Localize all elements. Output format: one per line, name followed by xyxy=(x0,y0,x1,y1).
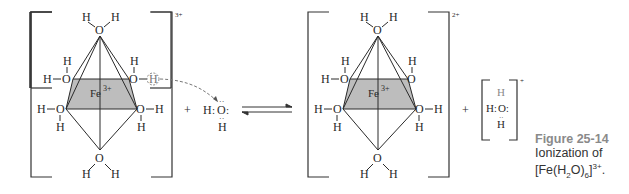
svg-text:H: H xyxy=(155,102,164,116)
fe-hydrolysis-diagram: H H O H H O H O H H O H O H H O H H xyxy=(0,0,629,194)
svg-text:H: H xyxy=(111,167,120,181)
svg-text:O: O xyxy=(62,72,71,86)
svg-text:O: O xyxy=(373,151,382,165)
svg-text:H: H xyxy=(43,72,52,86)
caption-line1: Ionization of xyxy=(535,146,602,160)
svg-text:H: H xyxy=(82,10,91,24)
svg-text:H: H xyxy=(111,10,120,24)
svg-text:H: H xyxy=(137,120,146,134)
svg-text:H: H xyxy=(63,54,72,68)
svg-text:H: H xyxy=(82,167,91,181)
figure-number: Figure 25-14 xyxy=(535,132,629,146)
svg-text:··: ·· xyxy=(219,97,224,106)
svg-text:O: O xyxy=(415,102,424,116)
svg-text:H: H xyxy=(486,102,494,114)
metal-ion-label: Fe xyxy=(90,87,101,99)
svg-text:H: H xyxy=(56,120,65,134)
svg-text:H: H xyxy=(415,120,424,134)
svg-text:H: H xyxy=(389,10,398,24)
svg-text:H: H xyxy=(341,54,350,68)
svg-text:H: H xyxy=(333,120,342,134)
svg-text:O: O xyxy=(136,102,145,116)
svg-text:O: O xyxy=(340,72,349,86)
plus-sign: + xyxy=(184,103,191,117)
svg-text:O: O xyxy=(95,23,104,37)
svg-text:3+: 3+ xyxy=(381,84,390,93)
complex-charge: 3+ xyxy=(175,11,183,19)
svg-text:H: H xyxy=(497,86,505,98)
figure-caption: Figure 25-14 Ionization of [Fe(H2O)6]3+. xyxy=(535,132,629,183)
svg-text:H: H xyxy=(321,72,330,86)
svg-text:O: O xyxy=(129,72,138,86)
svg-text:O: O xyxy=(373,23,382,37)
svg-text:H: H xyxy=(360,167,369,181)
svg-text:3+: 3+ xyxy=(103,84,112,93)
svg-text:H: H xyxy=(314,102,323,116)
svg-text:H: H xyxy=(218,120,227,134)
hydronium-charge: + xyxy=(520,77,524,85)
caption-formula: [Fe(H2O)6]3+. xyxy=(535,163,605,177)
svg-text:H: H xyxy=(408,54,417,68)
product-metal-ion-label: Fe xyxy=(368,87,379,99)
svg-text:H: H xyxy=(203,103,212,117)
svg-text:H: H xyxy=(37,102,46,116)
svg-text::: : xyxy=(506,103,509,114)
product-equatorial-plane xyxy=(343,79,416,109)
svg-text::: : xyxy=(226,104,229,116)
svg-text:O: O xyxy=(407,72,416,86)
equilibrium-arrows xyxy=(242,104,292,115)
svg-text::: : xyxy=(494,103,497,114)
product-complex-charge: 2+ xyxy=(452,11,460,19)
svg-text:O: O xyxy=(95,151,104,165)
svg-text:H: H xyxy=(130,54,139,68)
water-molecule: H : O : ·· ·· H xyxy=(203,97,229,134)
svg-text::: : xyxy=(212,104,215,116)
equatorial-plane xyxy=(66,79,137,109)
svg-text:H: H xyxy=(497,118,505,130)
svg-text:O: O xyxy=(498,102,506,114)
svg-text:H: H xyxy=(434,102,443,116)
plus-sign-2: + xyxy=(462,103,469,117)
svg-text:H: H xyxy=(360,10,369,24)
svg-text:H: H xyxy=(389,167,398,181)
svg-text:O: O xyxy=(56,102,65,116)
proton-transfer-arrow xyxy=(160,79,218,102)
svg-text:H: H xyxy=(149,72,158,86)
hydronium-ion: H H : O : ·· H + xyxy=(486,77,524,130)
svg-text:O: O xyxy=(333,102,342,116)
